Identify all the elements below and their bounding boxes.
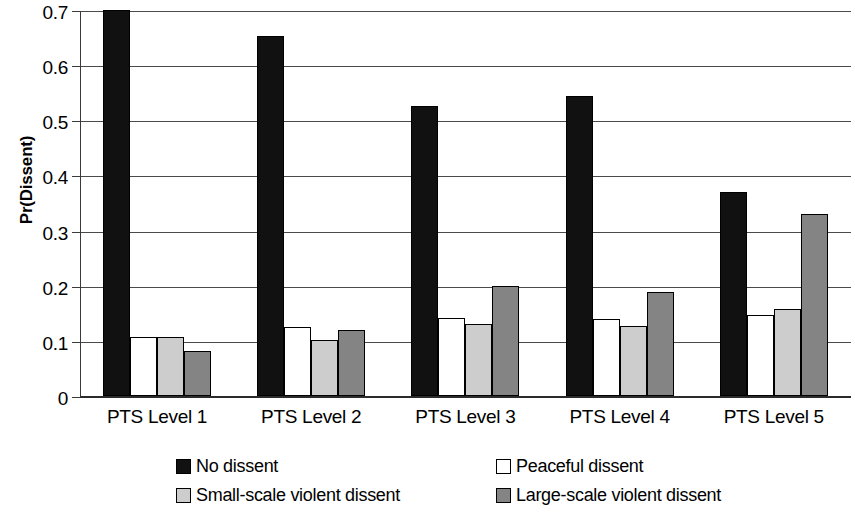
y-axis-tick-label: 0.2 [10,278,68,297]
bar [103,10,130,396]
y-axis-tick-label: 0 [10,389,68,408]
bar [720,192,747,396]
bar [566,96,593,396]
legend-swatch-icon [496,459,511,474]
bar-group [257,12,365,396]
legend-label: No dissent [196,457,278,475]
y-axis-tick-label: 0.6 [10,58,68,77]
legend-row: No dissentPeaceful dissent [176,452,836,480]
x-axis-tick-label: PTS Level 4 [540,406,700,428]
bar [465,324,492,396]
bar [130,337,157,396]
legend-label: Peaceful dissent [516,457,643,475]
bar [184,351,211,396]
y-axis-tick-label: 0.1 [10,333,68,352]
bar [157,337,184,396]
legend-row: Small-scale violent dissentLarge-scale v… [176,481,836,509]
bar-chart-figure: Pr(Dissent) 00.10.20.30.40.50.60.7 PTS L… [0,0,855,517]
chart-legend: No dissentPeaceful dissentSmall-scale vi… [176,452,836,512]
bar [747,315,774,396]
bar [774,309,801,396]
bar-group [103,12,211,396]
bar [492,286,519,396]
x-axis-line [80,396,851,398]
bar-group [411,12,519,396]
legend-item[interactable]: Peaceful dissent [496,452,643,480]
x-axis-tick-label: PTS Level 3 [385,406,545,428]
bar [257,36,284,396]
legend-label: Large-scale violent dissent [516,486,721,504]
bar [801,214,828,396]
bar [411,106,438,396]
legend-swatch-icon [176,488,191,503]
legend-item[interactable]: No dissent [176,452,496,480]
x-axis-tick-label: PTS Level 1 [77,406,237,428]
y-axis-tick-labels: 00.10.20.30.40.50.60.7 [10,0,68,410]
legend-label: Small-scale violent dissent [196,486,400,504]
legend-swatch-icon [176,459,191,474]
bar [647,292,674,396]
bar [338,330,365,396]
legend-swatch-icon [496,488,511,503]
x-axis-tick-label: PTS Level 2 [231,406,391,428]
bar [620,326,647,396]
legend-item[interactable]: Large-scale violent dissent [496,481,721,509]
bars-layer [80,12,851,396]
x-axis-tick-labels: PTS Level 1PTS Level 2PTS Level 3PTS Lev… [80,406,851,442]
y-axis-tick-label: 0.3 [10,223,68,242]
bar [284,327,311,396]
bar-group [720,12,828,396]
bar [593,319,620,396]
bar [438,318,465,396]
legend-item[interactable]: Small-scale violent dissent [176,481,496,509]
x-axis-tick-label: PTS Level 5 [694,406,854,428]
plot-area [80,12,851,398]
y-axis-tick-label: 0.5 [10,113,68,132]
bar [311,340,338,397]
y-axis-tick-label: 0.4 [10,168,68,187]
y-axis-tick-label: 0.7 [10,3,68,22]
bar-group [566,12,674,396]
